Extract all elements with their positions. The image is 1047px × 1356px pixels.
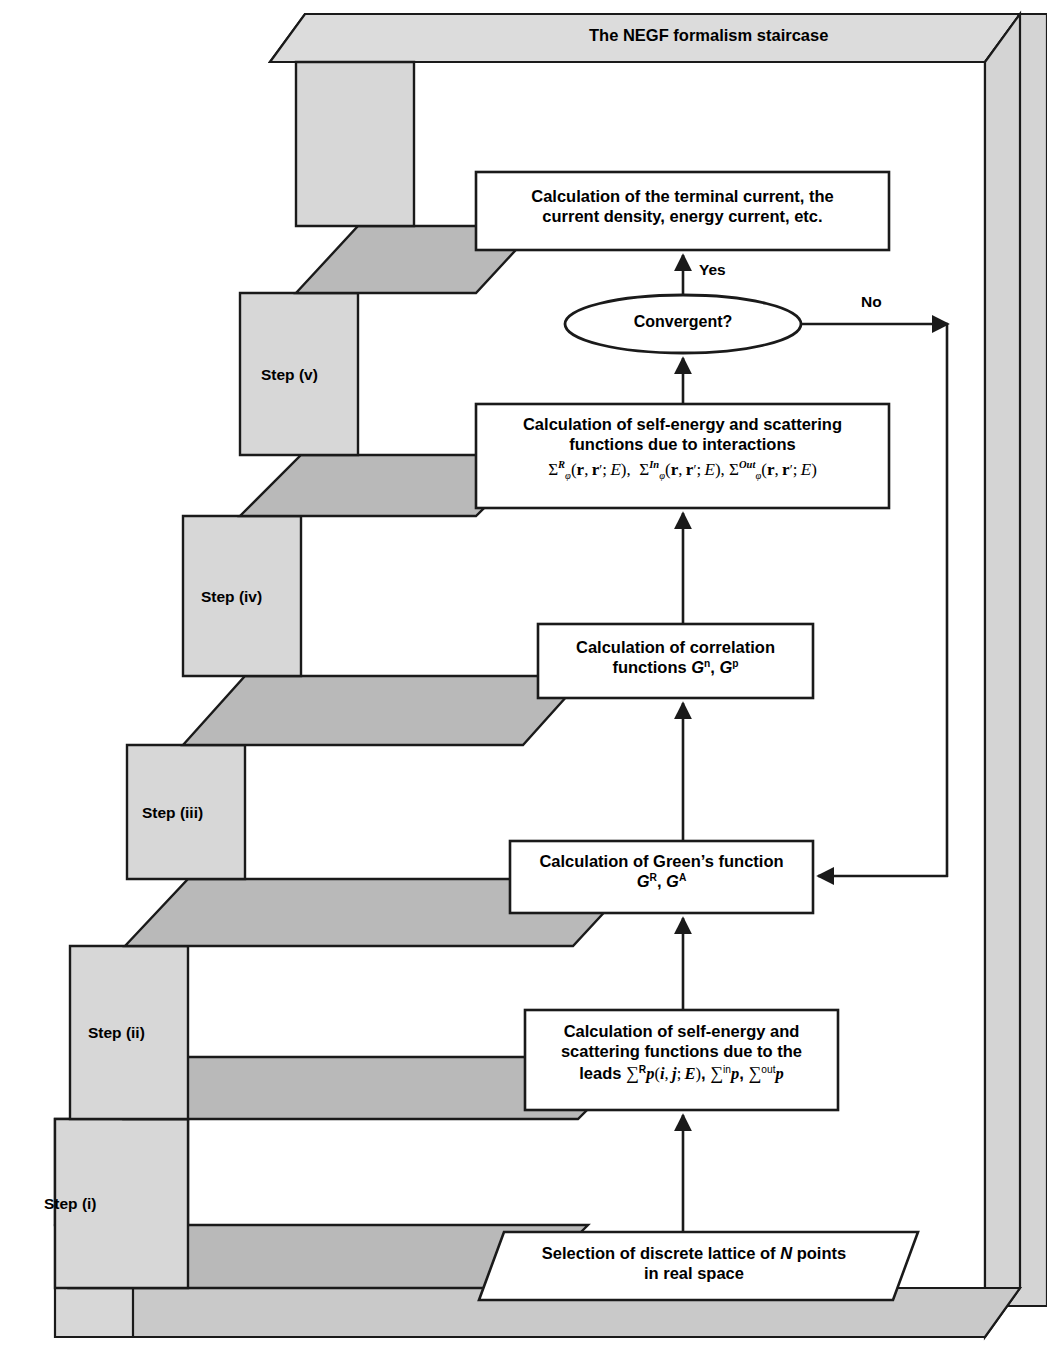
decision-yes-label: Yes: [699, 261, 726, 279]
leads-line3: leads ∑Rp(i, j; E), ∑inp, ∑outp: [525, 1063, 838, 1085]
riser-top: [296, 62, 414, 226]
step-label-i: Step (i): [44, 1195, 97, 1213]
correlation-line2: functions Gn, Gp: [538, 657, 813, 677]
step-label-iii: Step (iii): [142, 804, 203, 822]
box-text-correlation-functions: Calculation of correlation functions Gn,…: [538, 637, 813, 677]
leads-line2: scattering functions due to the: [525, 1041, 838, 1061]
box-text-terminal-current: Calculation of the terminal current, the…: [476, 186, 889, 226]
interactions-line1: Calculation of self-energy and scatterin…: [476, 414, 889, 434]
greens-line2: GR, GA: [510, 871, 813, 891]
page-title: The NEGF formalism staircase: [589, 26, 828, 45]
box-text-self-energy-leads: Calculation of self-energy and scatterin…: [525, 1021, 838, 1085]
box-text-self-energy-interactions: Calculation of self-energy and scatterin…: [476, 414, 889, 481]
interactions-line2: functions due to interactions: [476, 434, 889, 454]
tread-step-iv: [183, 676, 585, 745]
greens-line1: Calculation of Green’s function: [510, 851, 813, 871]
step-label-ii: Step (ii): [88, 1024, 145, 1042]
lattice-line2: in real space: [479, 1263, 909, 1283]
box-text-greens-function: Calculation of Green’s function GR, GA: [510, 851, 813, 891]
decision-label: Convergent?: [565, 313, 801, 331]
frame-right-band-shape: [985, 14, 1020, 1337]
lattice-line1: Selection of discrete lattice of N point…: [479, 1243, 909, 1263]
correlation-line1: Calculation of correlation: [538, 637, 813, 657]
step-label-v: Step (v): [261, 366, 318, 384]
decision-no-label: No: [861, 293, 882, 311]
terminal-current-line1: Calculation of the terminal current, the: [476, 186, 889, 206]
leads-line1: Calculation of self-energy and: [525, 1021, 838, 1041]
terminal-current-line2: current density, energy current, etc.: [476, 206, 889, 226]
negf-staircase-diagram: The NEGF formalism staircase Step (v) St…: [0, 0, 1047, 1356]
step-label-iv: Step (iv): [201, 588, 262, 606]
interactions-equation: ΣRφ(r, r′; E), ΣInφ(r, r′; E), ΣOutφ(r, …: [476, 460, 889, 481]
box-text-lattice-selection: Selection of discrete lattice of N point…: [479, 1243, 909, 1283]
